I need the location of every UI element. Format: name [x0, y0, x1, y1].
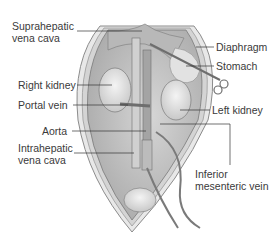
- label-right-kidney: Right kidney: [18, 79, 76, 91]
- label-line: vena cava: [12, 32, 74, 44]
- label-diaphragm: Diaphragm: [216, 41, 267, 53]
- label-inferior-mesenteric-vein: Inferior mesenteric vein: [195, 168, 269, 192]
- lower-organ: [124, 188, 156, 212]
- label-aorta: Aorta: [42, 125, 67, 137]
- label-suprahepatic-vena-cava: Suprahepatic vena cava: [12, 20, 74, 44]
- label-line: Inferior: [195, 168, 269, 180]
- vena-cava: [132, 38, 140, 168]
- label-line: Intrahepatic: [18, 142, 73, 154]
- aorta: [143, 50, 151, 150]
- label-line: vena cava: [18, 154, 73, 166]
- label-portal-vein: Portal vein: [18, 99, 68, 111]
- left-kidney: [161, 80, 191, 120]
- label-intrahepatic-vena-cava: Intrahepatic vena cava: [18, 142, 73, 166]
- label-line: mesenteric vein: [195, 180, 269, 192]
- label-left-kidney: Left kidney: [212, 104, 263, 116]
- intrahepatic-cava: [142, 140, 152, 170]
- label-stomach: Stomach: [216, 60, 257, 72]
- label-line: Suprahepatic: [12, 20, 74, 32]
